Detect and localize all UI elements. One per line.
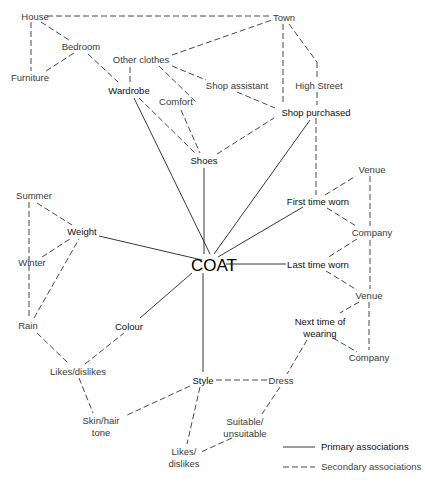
node-shop-purchased: Shop purchased (281, 107, 350, 118)
edge-likes1-colour (85, 333, 124, 364)
edge-coat-colour (140, 273, 192, 318)
node-skin-hair: Skin/hair (83, 415, 120, 426)
node-company-1: Company (352, 227, 393, 238)
edge-house-bedroom (41, 22, 69, 40)
node-wardrobe: Wardrobe (108, 85, 149, 96)
edge-winter-weight (42, 239, 70, 257)
node-likes-2: Likes/ (172, 446, 197, 457)
edge-first-time-worn-venue (325, 176, 356, 195)
edge-last-time-worn-venue2 (326, 271, 357, 290)
edge-rain-weight (34, 239, 79, 318)
edge-venue2-next-time (340, 302, 359, 313)
node-last-time-worn: Last time worn (287, 259, 349, 270)
mind-map-diagram: House Town Bedroom Other clothes Furnitu… (0, 0, 425, 484)
edge-coat-shop-purchased (214, 120, 310, 254)
edge-shoes-shop-purchased (217, 118, 274, 154)
edge-town-high-street (289, 24, 317, 62)
node-summer: Summer (16, 190, 52, 201)
node-other-clothes: Other clothes (113, 54, 170, 65)
node-first-time-worn: First time worn (287, 196, 349, 207)
edge-next-time-company2 (333, 338, 357, 352)
node-dislikes-2: dislikes (168, 458, 199, 469)
node-tone: tone (92, 427, 111, 438)
node-rain: Rain (18, 320, 38, 331)
node-bedroom: Bedroom (62, 41, 101, 52)
node-town: Town (273, 12, 295, 23)
node-venue-2: Venue (356, 290, 383, 301)
edge-shop-assistant-shop-purchased (237, 92, 275, 108)
node-house: House (21, 11, 48, 22)
edge-style-likes2 (187, 387, 200, 444)
legend: Primary associations Secondary associati… (283, 441, 422, 472)
node-dress: Dress (269, 375, 294, 386)
node-high-street: High Street (295, 80, 343, 91)
edge-other-clothes-shop-assistant (172, 66, 206, 80)
edge-next-time-dress (287, 340, 307, 374)
node-winter: Winter (18, 257, 45, 268)
edge-coat-wardrobe (134, 98, 210, 254)
node-unsuitable: unsuitable (223, 428, 266, 439)
edge-other-clothes-town (172, 20, 272, 55)
node-likes-dislikes-1: Likes/dislikes (50, 366, 106, 377)
legend-secondary-label: Secondary associations (321, 461, 422, 472)
node-venue-1: Venue (359, 164, 386, 175)
edge-style-skin (125, 386, 190, 416)
node-next-time-of: Next time of (295, 316, 346, 327)
edge-coat-first-time-worn (218, 207, 303, 257)
node-company-2: Company (349, 352, 390, 363)
edge-first-time-worn-company (327, 208, 356, 226)
edge-rain-likes1 (37, 333, 69, 364)
node-weight: Weight (67, 226, 97, 237)
node-colour: Colour (115, 321, 143, 332)
node-wearing: wearing (302, 328, 336, 339)
edge-furniture-bedroom (46, 53, 74, 71)
node-suitable: Suitable/ (227, 416, 264, 427)
node-style: Style (192, 375, 213, 386)
edge-summer-weight (37, 203, 72, 225)
legend-primary-label: Primary associations (321, 441, 409, 452)
edge-company-last-time-worn (327, 239, 357, 258)
edge-dress-suitable (262, 387, 280, 414)
node-comfort: Comfort (159, 96, 193, 107)
edge-coat-weight (99, 236, 202, 260)
edge-comfort-shoes (181, 110, 200, 153)
node-coat-center: COAT (191, 256, 237, 275)
node-furniture: Furniture (11, 72, 49, 83)
node-shoes: Shoes (191, 155, 218, 166)
edge-suitable-likes2 (201, 438, 232, 452)
node-shop-assistant: Shop assistant (206, 80, 269, 91)
edge-likes1-skin (79, 378, 93, 413)
